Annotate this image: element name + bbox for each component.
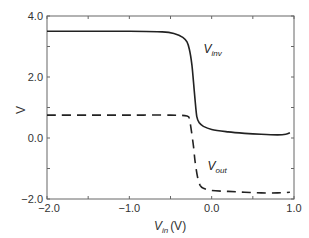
x-tick-label: 1.0	[286, 202, 301, 214]
x-axis-label-sub: in	[162, 226, 169, 235]
axis-tick-labels: −2.0−1.00.01.0−2.00.02.04.0	[21, 10, 301, 214]
plot-border	[47, 16, 294, 199]
x-tick-label: −1.0	[118, 202, 140, 214]
chart-svg: −2.0−1.00.01.0−2.00.02.04.0 VinvVout V V…	[0, 0, 309, 238]
y-axis-label: V	[14, 106, 28, 114]
x-tick-label: 0.0	[204, 202, 219, 214]
y-tick-label: 2.0	[28, 71, 43, 83]
series-v-out	[47, 115, 290, 193]
plot-frame	[47, 16, 294, 199]
y-tick-label: 4.0	[28, 10, 43, 22]
series-annotations: VinvVout	[203, 42, 227, 175]
x-axis-label-unit: (V)	[170, 219, 186, 233]
x-axis-label: Vin(V)	[154, 219, 186, 235]
annotation-v-out: Vout	[208, 159, 228, 175]
y-tick-label: −2.0	[21, 193, 43, 205]
annotation-v-inv: Vinv	[203, 42, 222, 58]
series-v-inv	[47, 31, 290, 135]
axis-ticks	[47, 16, 294, 199]
series-lines	[47, 31, 290, 193]
y-tick-label: 0.0	[28, 132, 43, 144]
